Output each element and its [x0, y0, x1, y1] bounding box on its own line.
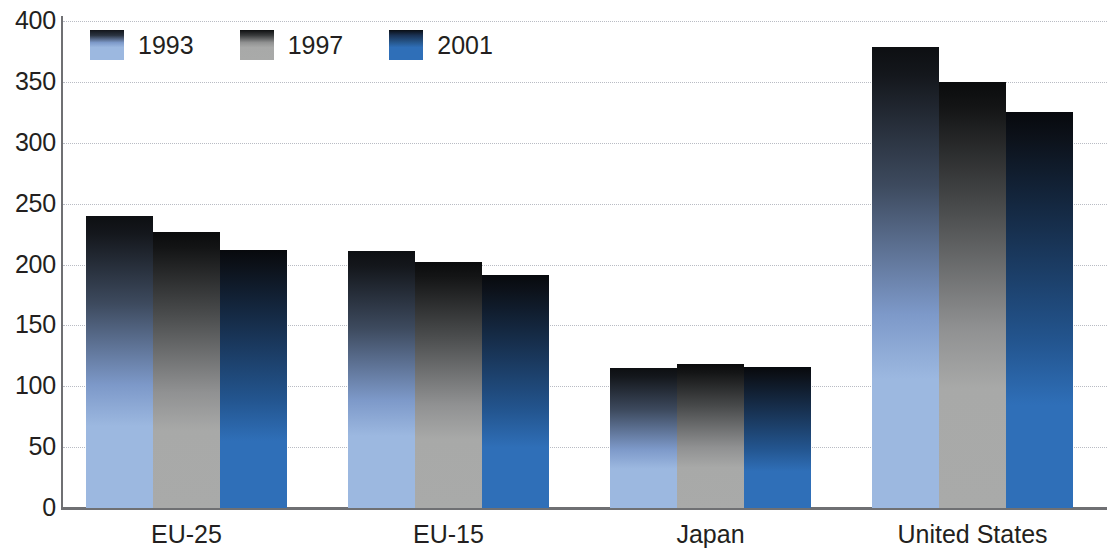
bar-fill: [86, 216, 153, 508]
legend-label-1993: 1993: [138, 33, 194, 58]
category-label-japan: Japan: [610, 520, 811, 548]
y-tick-label: 300: [4, 130, 56, 155]
bar-series-container: [62, 0, 1107, 553]
bar-eu-25-1997: [153, 232, 220, 508]
bar-fill: [482, 275, 549, 508]
bar-fill: [1006, 112, 1073, 508]
bar-united-states-1993: [872, 47, 939, 508]
y-tick-label: 150: [4, 312, 56, 337]
bar-fill: [348, 251, 415, 508]
bar-eu-15-2001: [482, 275, 549, 508]
bar-united-states-2001: [1006, 112, 1073, 508]
legend-item-2001[interactable]: 2001: [389, 30, 493, 60]
legend-item-1997[interactable]: 1997: [240, 30, 390, 60]
category-label-eu-25: EU-25: [86, 520, 287, 548]
legend-item-1993[interactable]: 1993: [90, 30, 240, 60]
legend-label-2001: 2001: [437, 33, 493, 58]
legend-swatch-1997: [240, 30, 274, 60]
category-label-united-states: United States: [872, 520, 1073, 548]
y-tick-label: 200: [4, 252, 56, 277]
y-tick-label: 100: [4, 373, 56, 398]
bar-japan-1997: [677, 364, 744, 508]
y-tick-label: 0: [4, 495, 56, 520]
bar-eu-25-2001: [220, 250, 287, 508]
bar-fill: [153, 232, 220, 508]
bar-fill: [677, 364, 744, 508]
bar-fill: [939, 82, 1006, 508]
bar-eu-15-1993: [348, 251, 415, 508]
y-tick-label: 400: [4, 8, 56, 33]
bar-fill: [220, 250, 287, 508]
y-tick-label: 350: [4, 69, 56, 94]
legend-swatch-2001: [389, 30, 423, 60]
bar-fill: [415, 262, 482, 508]
bar-japan-1993: [610, 368, 677, 508]
bar-fill: [744, 367, 811, 508]
bar-united-states-1997: [939, 82, 1006, 508]
chart-legend: 199319972001: [90, 30, 493, 60]
y-tick-label: 250: [4, 191, 56, 216]
legend-swatch-1993: [90, 30, 124, 60]
bar-fill: [610, 368, 677, 508]
bar-japan-2001: [744, 367, 811, 508]
bar-eu-25-1993: [86, 216, 153, 508]
legend-label-1997: 1997: [288, 33, 344, 58]
bar-chart: 050100150200250300350400 EU-25EU-15Japan…: [0, 0, 1107, 553]
bar-eu-15-1997: [415, 262, 482, 508]
bar-fill: [872, 47, 939, 508]
category-label-eu-15: EU-15: [348, 520, 549, 548]
y-tick-label: 50: [4, 434, 56, 459]
